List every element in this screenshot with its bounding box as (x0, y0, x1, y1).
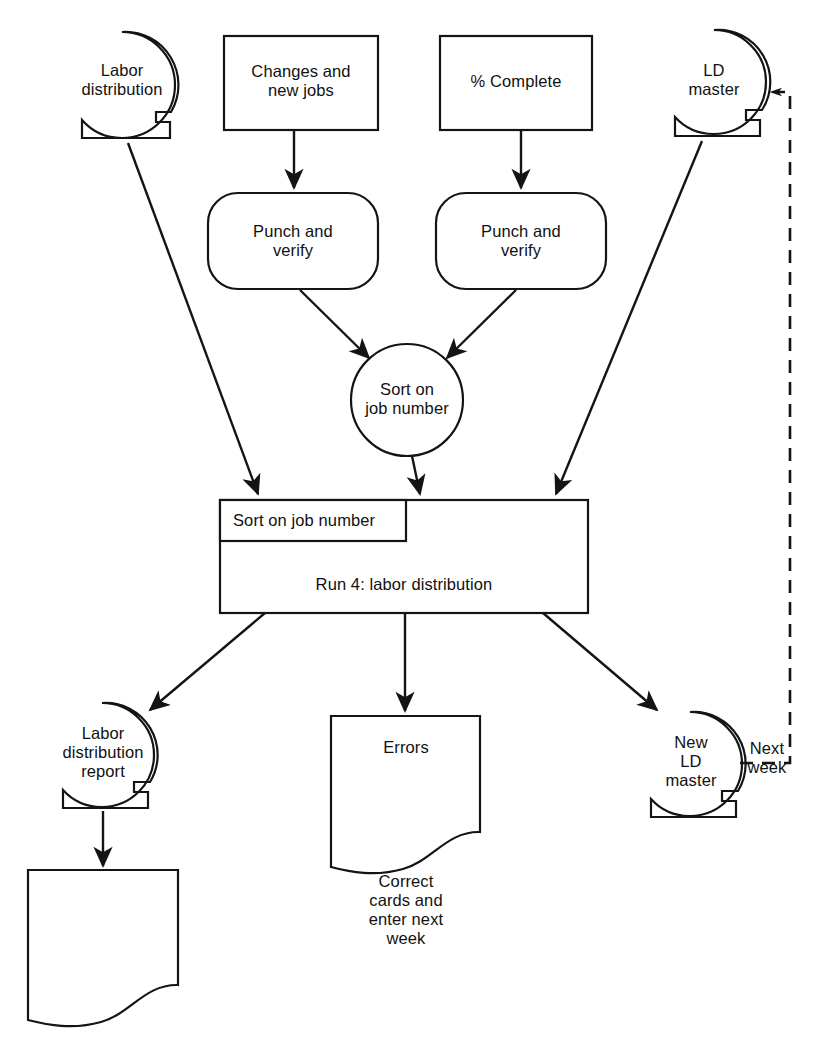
edge-punch-right-to-sort (447, 290, 516, 358)
diagram-canvas (0, 0, 822, 1056)
edge-next-week-feedback (740, 92, 790, 763)
changes-new-jobs-shape (224, 36, 378, 130)
edge-punch-left-to-sort (300, 290, 369, 358)
percent-complete-shape (440, 36, 592, 130)
flowchart-diagram: Labor distribution Changes and new jobs … (0, 0, 822, 1056)
edge-run4-to-new-ld-master (543, 613, 657, 710)
punch-verify-left-shape (208, 193, 378, 289)
edge-sort-to-run4 (412, 456, 420, 494)
punch-verify-right-shape (436, 193, 606, 289)
ld-master-tape-shape (675, 30, 770, 136)
edge-run4-to-report (150, 613, 265, 710)
labor-distribution-report-shape (63, 703, 158, 808)
errors-document-shape (331, 716, 480, 873)
sort-circle-shape (351, 344, 463, 456)
sort-inner-box-shape (220, 500, 406, 541)
report-document-shape (28, 870, 178, 1026)
new-ld-master-shape (651, 712, 746, 817)
labor-distribution-tape-shape (82, 32, 178, 138)
